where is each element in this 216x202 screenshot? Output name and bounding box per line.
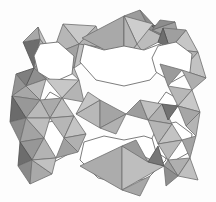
crystal-structure-figure [0,0,216,202]
polyhedral-framework-diagram [0,0,216,202]
